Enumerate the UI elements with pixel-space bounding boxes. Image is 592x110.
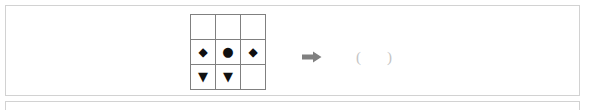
stimulus-row: ◆ ● ◆ ▼ ▼ () — [6, 6, 581, 95]
matrix-grid: ◆ ● ◆ ▼ ▼ — [190, 14, 266, 90]
matrix-cell-r2c3[interactable]: ◆ — [241, 40, 266, 65]
filled-down-triangle-icon: ▼ — [223, 65, 233, 89]
matrix-cell-r1c3[interactable] — [241, 15, 266, 40]
matrix-cell-r3c3[interactable] — [241, 65, 266, 90]
question-panel: ◆ ● ◆ ▼ ▼ () — [5, 5, 580, 96]
filled-down-triangle-icon: ▼ — [198, 65, 208, 89]
next-question-panel — [5, 101, 580, 110]
page-canvas: ◆ ● ◆ ▼ ▼ () — [0, 0, 592, 110]
matrix-cell-r1c2[interactable] — [216, 15, 241, 40]
filled-diamond-icon: ◆ — [248, 40, 257, 64]
table-row: ▼ ▼ — [191, 65, 266, 90]
matrix-cell-r3c1[interactable]: ▼ — [191, 65, 216, 90]
close-paren: ) — [387, 49, 392, 65]
answer-blank[interactable]: () — [356, 46, 416, 68]
table-row: ◆ ● ◆ — [191, 40, 266, 65]
matrix-cell-r3c2[interactable]: ▼ — [216, 65, 241, 90]
matrix-cell-r2c2[interactable]: ● — [216, 40, 241, 65]
open-paren: ( — [356, 49, 361, 65]
table-row — [191, 15, 266, 40]
matrix-cell-r1c1[interactable] — [191, 15, 216, 40]
right-arrow-icon — [299, 48, 325, 66]
filled-circle-icon: ● — [222, 40, 233, 64]
filled-diamond-icon: ◆ — [198, 40, 207, 64]
matrix-cell-r2c1[interactable]: ◆ — [191, 40, 216, 65]
